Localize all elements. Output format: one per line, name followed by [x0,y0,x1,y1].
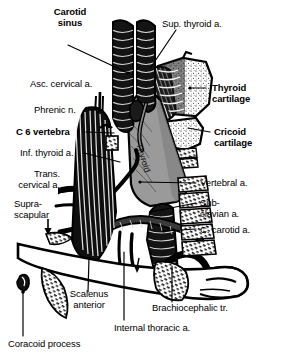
label-internal-thoracic-artery: Internal thoracic a. [114,322,190,333]
label-carotid-sinus: Carotid sinus [10,6,130,28]
dot-thyroid-cartilage [188,86,191,89]
label-asc-cervical-artery: Asc. cervical a. [30,78,92,89]
label-inf-thyroid-artery: Inf. thyroid a. [20,147,73,158]
label-thyroid-cartilage: Thyroid cartilage [212,82,250,104]
label-sup-thyroid-artery: Sup. thyroid a. [162,18,222,29]
c6-vertebra-marker [106,136,118,150]
label-suprascapular-artery: Supra- scapular [14,198,49,220]
label-brachiocephalic-trunk: Brachiocephalic tr. [152,302,228,313]
label-coracoid-process: Coracoid process [8,338,80,349]
label-phrenic-nerve: Phrenic n. [34,104,76,115]
dot-carotid-sinus [126,71,129,74]
dot-c-carotid [162,229,165,232]
label-c6-vertebra: C 6 vertebra [16,126,70,137]
label-vertebral-artery: Vertebral a. [200,177,247,188]
label-scalenus-anterior: Scalenus anterior [46,288,132,310]
label-subclavian-artery: Sub- clavian a. [200,197,239,219]
dot-coracoid [21,290,25,294]
dot-vertebral [138,180,141,183]
label-cricoid-cartilage: Cricoid cartilage [214,126,252,148]
label-transverse-cervical-artery: Trans. cervical a. [0,168,60,190]
label-common-carotid-artery: C. carotid a. [200,224,250,235]
external-carotid-artery [137,20,155,112]
anatomy-figure: Carotid sinus Sup. thyroid a. Asc. cervi… [0,0,284,358]
